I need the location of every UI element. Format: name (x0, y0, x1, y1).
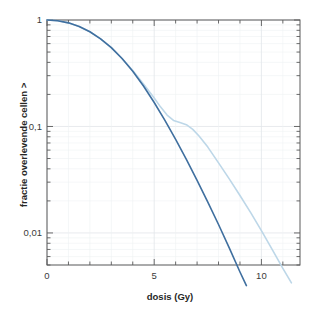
data-series (47, 20, 291, 286)
survival-curve-chart: 10,10,010510 dosis (Gy) fractie overleve… (0, 0, 320, 320)
axis-ticks (47, 20, 300, 265)
x-tick-label: 10 (256, 270, 267, 281)
y-tick-label: 0,1 (29, 121, 42, 132)
y-tick-label: 1 (37, 14, 42, 25)
x-tick-label: 5 (152, 270, 157, 281)
minor-gridlines (47, 25, 300, 265)
y-tick-label: 0,01 (24, 227, 43, 238)
y-axis-title: fractie overlevende cellen > (18, 82, 29, 207)
plot-frame (47, 20, 300, 265)
chart-container: 10,10,010510 dosis (Gy) fractie overleve… (0, 0, 320, 320)
tick-labels: 10,10,010510 (24, 14, 267, 281)
major-gridlines (47, 20, 300, 265)
x-tick-label: 0 (44, 270, 49, 281)
x-axis-title: dosis (Gy) (147, 291, 193, 302)
